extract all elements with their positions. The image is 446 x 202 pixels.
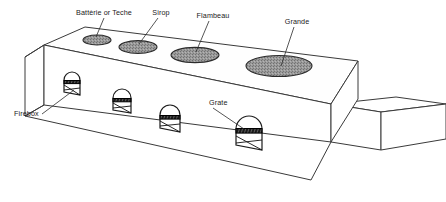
kettle-flambeau-opening[interactable] [171, 47, 219, 62]
firebox-2-grate [113, 99, 131, 102]
furnace-illustration: Battèrie or Teche Sirop Flambeau Grande … [0, 0, 446, 202]
firebox-4[interactable] [236, 116, 262, 150]
label-kettle-sirop: Sirop [152, 8, 169, 17]
label-kettle-batterie: Battèrie or Teche [76, 8, 132, 17]
label-firebox: Firebox [14, 109, 39, 118]
firebox-1-grate [64, 81, 80, 84]
label-kettle-grande: Grande [285, 17, 310, 26]
flue-side-face [381, 104, 446, 150]
firebox-3-grate [160, 116, 180, 120]
kettle-grande-opening[interactable] [246, 56, 312, 77]
firebox-3[interactable] [160, 105, 180, 132]
kettle-batterie[interactable] [83, 35, 111, 45]
label-grate: Grate [209, 98, 227, 107]
furnace-body [25, 27, 446, 180]
furnace-bottom-right-edge [311, 142, 331, 180]
kettle-batterie-opening[interactable] [83, 35, 111, 45]
kettle-sirop[interactable] [119, 41, 157, 54]
label-kettle-flambeau: Flambeau [197, 11, 230, 20]
firebox-2[interactable] [113, 89, 131, 113]
kettle-sirop-opening[interactable] [119, 41, 157, 54]
furnace-diagram: Battèrie or Teche Sirop Flambeau Grande … [0, 0, 446, 202]
kettle-flambeau[interactable] [171, 47, 219, 62]
firebox-4-grate [236, 129, 262, 134]
kettle-grande[interactable] [246, 56, 312, 77]
